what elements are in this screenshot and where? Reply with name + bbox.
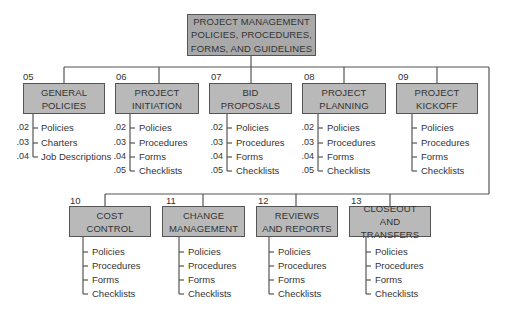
section-code: 08 [304,71,315,82]
section-node-cost-control: COST CONTROL [69,206,151,237]
node-line: POLICIES [42,99,87,112]
list-item: Checklists [278,288,321,299]
item-number: .04 [296,151,314,161]
node-line: CLOSEOUT [363,202,416,215]
item-number: .03 [205,137,223,147]
node-line: BID [242,86,258,99]
node-line: AND TRANSFERS [350,215,430,241]
list-item: Procedures [278,260,327,271]
list-item: Procedures [375,260,424,271]
node-line: PROJECT [321,86,366,99]
root-node: PROJECT MANAGEMENT POLICIES, PROCEDURES,… [187,14,316,56]
item-number: .04 [205,151,223,161]
node-line: GENERAL [41,86,87,99]
list-item: Policies [421,122,454,133]
section-node-project-planning: PROJECT PLANNING [302,83,386,114]
list-item: Policies [188,246,221,257]
section-node-reviews-and-reports: REVIEWS AND REPORTS [256,206,338,237]
root-line-2: POLICIES, PROCEDURES, [191,28,312,42]
list-item: Checklists [421,165,464,176]
item-number: .05 [108,165,126,175]
section-code: 13 [351,195,362,206]
node-line: INITIATION [132,99,182,112]
node-line: REVIEWS [275,209,320,222]
list-item: Checklists [139,165,182,176]
list-item: Checklists [92,288,135,299]
item-number: .05 [205,165,223,175]
list-item: Job Descriptions [41,151,111,162]
item-number: .03 [11,137,29,147]
list-item: Procedures [188,260,237,271]
list-item: Policies [278,246,311,257]
section-code: 09 [398,71,409,82]
node-line: CHANGE [183,209,224,222]
node-line: PROJECT [414,86,459,99]
list-item: Procedures [236,137,285,148]
root-line-3: FORMS, AND GUIDELINES [191,42,312,56]
section-code: 10 [70,195,81,206]
section-node-change-management: CHANGE MANAGEMENT [162,206,245,237]
list-item: Policies [139,122,172,133]
item-number: .04 [108,151,126,161]
node-line: PROJECT [134,86,179,99]
list-item: Policies [327,122,360,133]
section-node-project-kickoff: PROJECT KICKOFF [396,83,478,114]
section-node-bid-proposals: BID PROPOSALS [209,83,292,114]
list-item: Procedures [92,260,141,271]
section-code: 05 [23,71,34,82]
list-item: Forms [139,151,166,162]
section-node-project-initiation: PROJECT INITIATION [115,83,199,114]
list-item: Forms [278,274,305,285]
item-number: .05 [296,165,314,175]
list-item: Checklists [236,165,279,176]
node-line: MANAGEMENT [169,222,238,235]
list-item: Procedures [139,137,188,148]
item-number: .02 [296,122,314,132]
list-item: Forms [188,274,215,285]
list-item: Procedures [327,137,376,148]
list-item: Forms [421,151,448,162]
list-item: Forms [327,151,354,162]
list-item: Checklists [188,288,231,299]
list-item: Policies [236,122,269,133]
node-line: COST [97,209,124,222]
list-item: Forms [236,151,263,162]
node-line: AND REPORTS [262,222,332,235]
list-item: Forms [375,274,402,285]
list-item: Forms [92,274,119,285]
list-item: Checklists [375,288,418,299]
section-code: 07 [211,71,222,82]
list-item: Policies [41,122,74,133]
list-item: Policies [92,246,125,257]
section-code: 12 [258,195,269,206]
item-number: .03 [296,137,314,147]
list-item: Policies [375,246,408,257]
node-line: CONTROL [86,222,133,235]
section-code: 11 [166,195,176,206]
item-number: .04 [11,151,29,161]
item-number: .02 [11,122,29,132]
item-number: .02 [108,122,126,132]
org-chart: PROJECT MANAGEMENT POLICIES, PROCEDURES,… [0,0,509,316]
section-node-general-policies: GENERAL POLICIES [23,83,105,114]
item-number: .03 [108,137,126,147]
node-line: KICKOFF [416,99,458,112]
root-line-1: PROJECT MANAGEMENT [193,15,310,29]
list-item: Checklists [327,165,370,176]
list-item: Procedures [421,137,470,148]
node-line: PLANNING [319,99,368,112]
item-number: .02 [205,122,223,132]
section-code: 06 [116,71,127,82]
node-line: PROPOSALS [221,99,281,112]
list-item: Charters [41,137,77,148]
section-node-closeout-and-transfers: CLOSEOUT AND TRANSFERS [349,206,431,237]
